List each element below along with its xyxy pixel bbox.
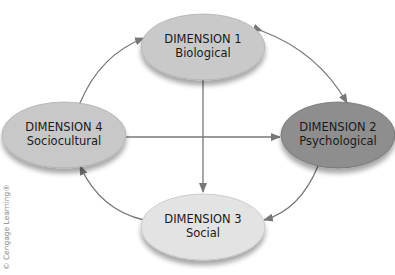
edge-dim4-dim1: [80, 38, 144, 103]
node-dimension-2: [281, 102, 395, 168]
node-dimension-3: [141, 194, 265, 260]
edge-dim3-dim4: [80, 166, 144, 220]
dimensions-diagram: [0, 0, 395, 275]
edge-dim1-dim2: [262, 31, 347, 103]
node-dimension-1: [141, 14, 265, 80]
edge-dim2-dim3: [264, 166, 318, 220]
copyright-credit: © Cengage Learning®: [2, 184, 11, 270]
node-dimension-4: [2, 102, 126, 168]
